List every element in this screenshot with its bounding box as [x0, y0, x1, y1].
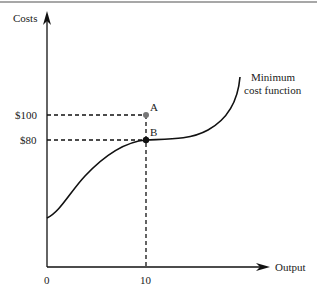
curve-label-line1: Minimum [251, 71, 295, 83]
point-a-label: A [150, 101, 158, 113]
point-b-marker [143, 137, 149, 143]
point-b-label: B [150, 126, 157, 138]
minimum-cost-chart: Costs Output $100 $80 0 10 A B Minimum c… [0, 0, 317, 297]
point-a-marker [143, 112, 149, 118]
y-axis-label: Costs [13, 12, 37, 24]
x-tick-10: 10 [140, 274, 152, 286]
curve-label-line2: cost function [244, 84, 302, 96]
y-tick-80: $80 [20, 134, 37, 146]
x-tick-0: 0 [44, 274, 50, 286]
x-axis-label: Output [275, 261, 306, 273]
y-tick-100: $100 [15, 109, 38, 121]
minimum-cost-curve [47, 77, 240, 218]
